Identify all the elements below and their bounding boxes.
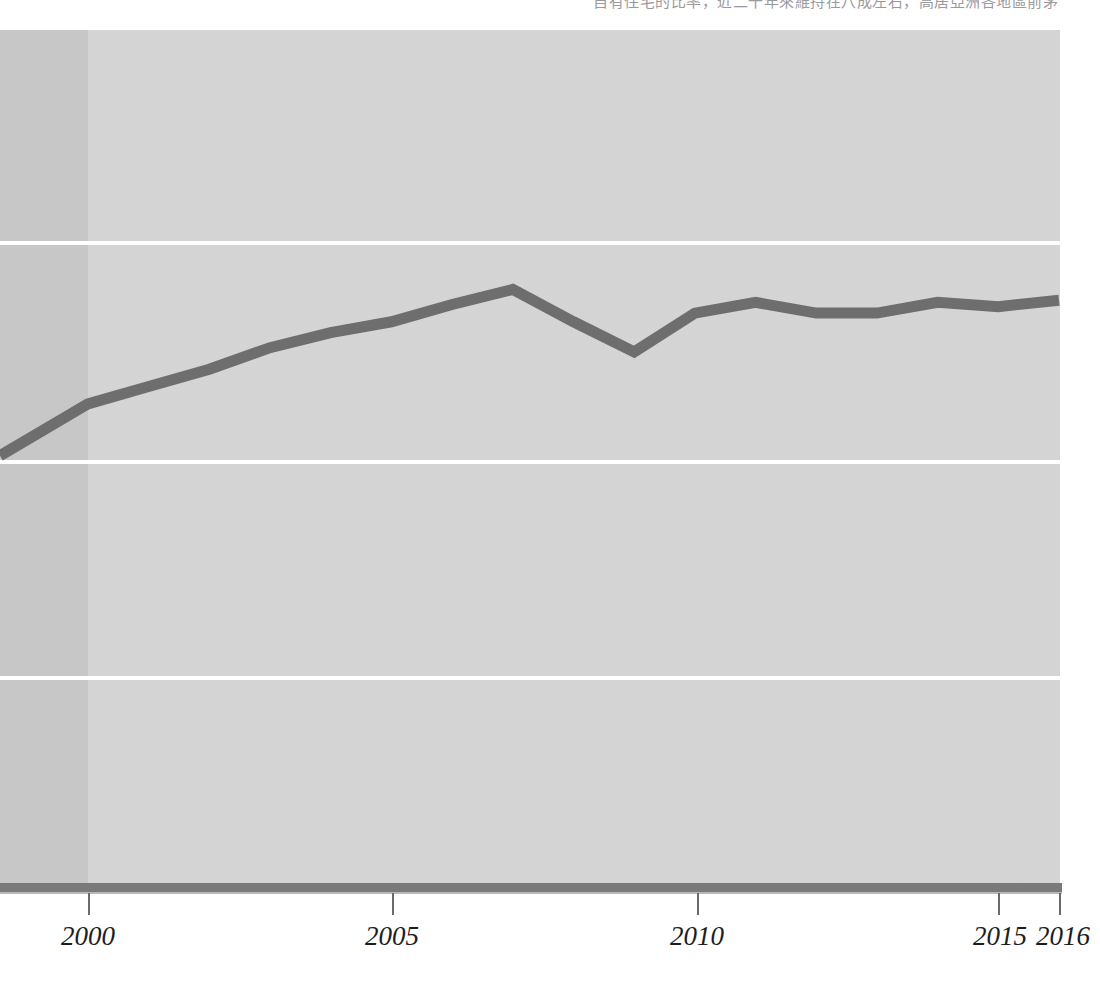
series-layer [0,30,1066,888]
x-tick-label-2015: 2015 [973,920,1027,952]
page-root: 自有住宅的比率，近二十年來維持在八成左右，高居亞洲各地區前茅 2000 2005… [0,0,1100,983]
x-tick-2010 [697,893,699,915]
x-tick-label-2010: 2010 [670,920,724,952]
x-tick-2000 [88,893,90,915]
axis-baseline-shadow [0,892,1062,894]
data-line-series-1 [0,289,1059,455]
x-tick-label-2000: 2000 [61,920,115,952]
x-tick-label-2016: 2016 [1036,920,1090,952]
x-tick-label-2005: 2005 [365,920,419,952]
x-tick-2015 [998,893,1000,915]
x-tick-2016 [1059,893,1061,915]
line-chart-figure: 2000 2005 2010 2015 2016 [0,0,1100,983]
x-tick-2005 [392,893,394,915]
axis-baseline [0,883,1062,892]
